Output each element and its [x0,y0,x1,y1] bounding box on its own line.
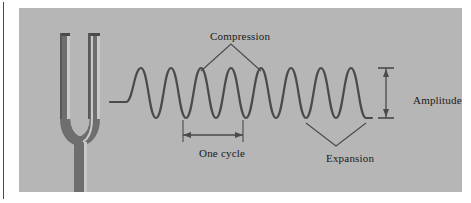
fork-left-edge [60,33,62,119]
fork-left-highlight [67,35,70,119]
fork-right-highlight [97,35,100,119]
fork-stem-highlight [84,142,87,192]
tuning-fork [60,33,100,192]
amplitude-measure [378,68,394,118]
fork-right-top-cap [90,33,100,36]
label-one-cycle: One cycle [199,147,245,159]
fork-right-inner-edge [88,33,90,119]
expansion-leader [306,123,366,146]
label-expansion: Expansion [326,152,374,164]
figure-root: Compression One cycle Expansion Amplitud… [0,0,471,203]
page-left-rule [3,2,4,199]
sound-wave [110,68,372,118]
label-amplitude: Amplitude [413,94,462,106]
label-compression: Compression [210,30,270,42]
illustration-panel: Compression One cycle Expansion Amplitud… [19,8,462,192]
one-cycle-measure [183,120,243,142]
